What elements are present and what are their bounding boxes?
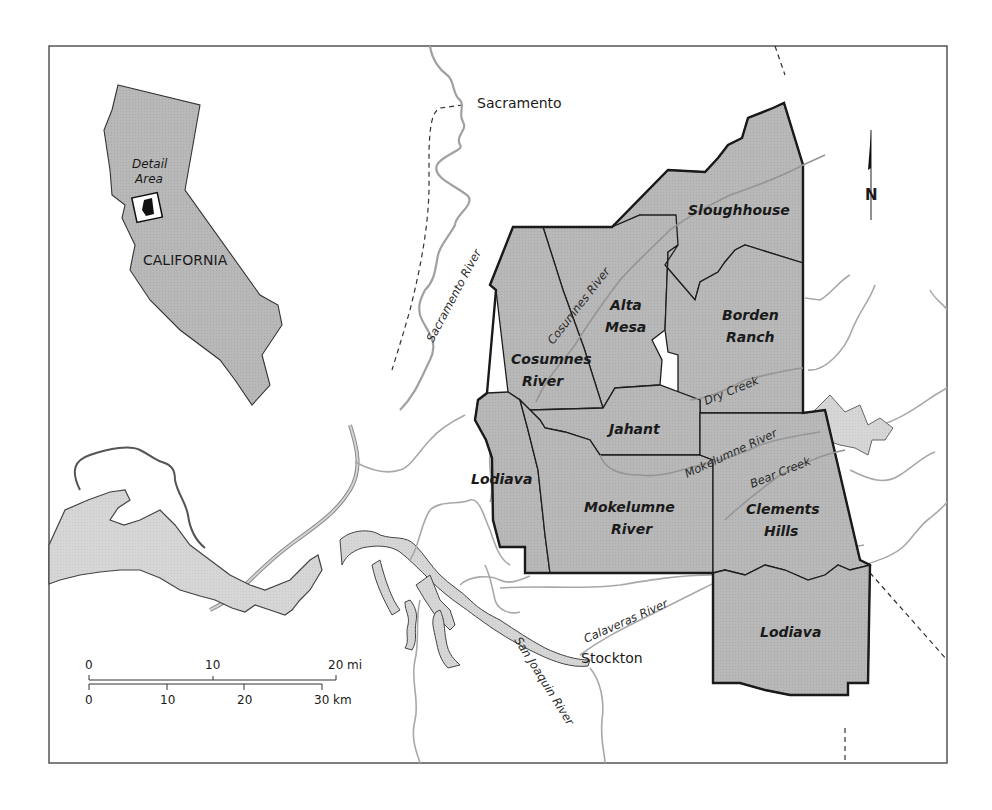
label-jahant: Jahant — [606, 421, 661, 437]
label-lodiava-west: Lodiava — [471, 471, 532, 487]
label-lodiava-south: Lodiava — [760, 624, 821, 640]
label-mokelumne-river-2: River — [611, 521, 653, 537]
label-sloughhouse: Sloughhouse — [688, 202, 790, 218]
label-cosumnes-river-1: Cosumnes — [511, 351, 592, 367]
california-label: CALIFORNIA — [143, 252, 228, 268]
city-sacramento: Sacramento — [477, 95, 562, 111]
label-alta-mesa-2: Mesa — [605, 319, 646, 335]
north-label: N — [865, 186, 878, 204]
scale-mi-0: 0 — [85, 658, 93, 672]
city-stockton: Stockton — [581, 650, 643, 666]
scale-km-30: 30 km — [314, 693, 352, 707]
label-borden-ranch-2: Ranch — [726, 329, 774, 345]
map-canvas: Detail Area CALIFORNIA N — [0, 0, 992, 810]
area-label: Area — [134, 172, 163, 186]
label-alta-mesa-1: Alta — [609, 297, 642, 313]
label-clements-hills-1: Clements — [746, 501, 820, 517]
detail-label: Detail — [132, 157, 168, 171]
label-borden-ranch-1: Borden — [722, 307, 779, 323]
scale-km-20: 20 — [237, 693, 252, 707]
scale-mi-20: 20 mi — [328, 658, 362, 672]
scale-km-10: 10 — [160, 693, 175, 707]
label-cosumnes-river-2: River — [522, 373, 564, 389]
label-clements-hills-2: Hills — [764, 523, 798, 539]
scale-km-0: 0 — [85, 693, 93, 707]
scale-mi-10: 10 — [205, 658, 220, 672]
label-mokelumne-river-1: Mokelumne — [584, 499, 675, 515]
